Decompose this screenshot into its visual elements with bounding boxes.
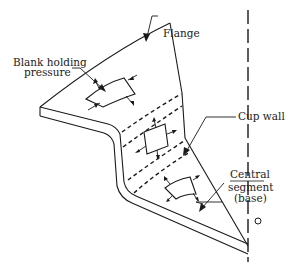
- label-pressure: pressure: [24, 66, 71, 78]
- leader-lines: [72, 16, 252, 212]
- cup-wall-element: [135, 117, 177, 160]
- label-base: (base): [234, 192, 267, 204]
- origin-marker: [255, 218, 261, 224]
- label-flange: Flange: [163, 27, 200, 39]
- label-central: Central: [230, 168, 271, 180]
- deep-drawing-diagram: Blank holding pressure Flange Cup wall C…: [0, 0, 288, 273]
- label-cup-wall: Cup wall: [238, 110, 285, 122]
- base-element: [164, 175, 200, 202]
